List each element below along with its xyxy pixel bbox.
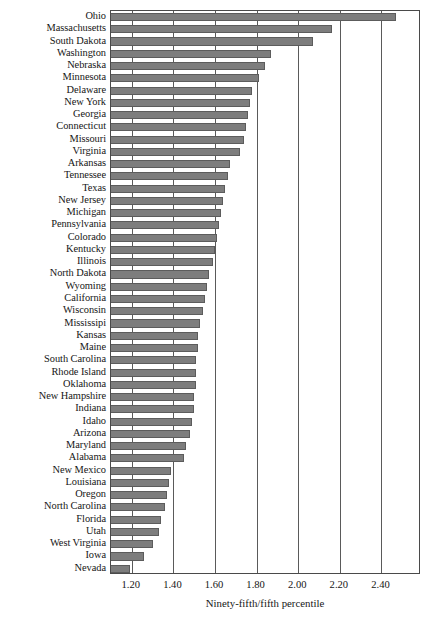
category-label: New Hampshire: [0, 390, 106, 402]
category-label: Ohio: [0, 10, 106, 22]
bar: [111, 37, 313, 45]
bar-row: [111, 281, 421, 293]
category-label: New Jersey: [0, 194, 106, 206]
bar-row: [111, 36, 421, 48]
x-axis-tick-labels: 1.201.401.601.802.002.202.40: [110, 578, 420, 594]
category-label: Maine: [0, 341, 106, 353]
bar: [111, 13, 396, 21]
bar: [111, 136, 244, 144]
bar-row: [111, 85, 421, 97]
bar: [111, 332, 198, 340]
category-label: New Mexico: [0, 464, 106, 476]
bar: [111, 430, 190, 438]
bar-row: [111, 538, 421, 550]
category-label: Indiana: [0, 402, 106, 414]
category-label: Kansas: [0, 329, 106, 341]
category-label: Rhode Island: [0, 366, 106, 378]
category-label: Delaware: [0, 84, 106, 96]
category-label: California: [0, 292, 106, 304]
category-label: Virginia: [0, 145, 106, 157]
bar: [111, 405, 194, 413]
bar-chart-figure: OhioMassachusettsSouth DakotaWashingtonN…: [0, 0, 428, 638]
bar-row: [111, 219, 421, 231]
bar: [111, 25, 332, 33]
bar: [111, 160, 230, 168]
category-label: Louisiana: [0, 476, 106, 488]
bar: [111, 307, 203, 315]
bar-row: [111, 367, 421, 379]
bar-row: [111, 428, 421, 440]
x-tick-label: 2.20: [330, 578, 349, 592]
bar-row: [111, 244, 421, 256]
bar: [111, 148, 240, 156]
bar-rows: [111, 11, 419, 573]
bar: [111, 552, 144, 560]
bar-row: [111, 207, 421, 219]
bar: [111, 99, 250, 107]
bar: [111, 283, 207, 291]
bar-row: [111, 330, 421, 342]
bar-row: [111, 440, 421, 452]
bar: [111, 123, 246, 131]
bar: [111, 185, 225, 193]
bar: [111, 491, 167, 499]
bar-row: [111, 170, 421, 182]
x-tick-label: 1.80: [246, 578, 265, 592]
category-label: Arizona: [0, 427, 106, 439]
category-label: Florida: [0, 513, 106, 525]
x-tick-label: 1.60: [205, 578, 224, 592]
category-label: Washington: [0, 47, 106, 59]
category-label: Minnesota: [0, 71, 106, 83]
bar: [111, 540, 153, 548]
bar: [111, 234, 217, 242]
category-label: Oklahoma: [0, 378, 106, 390]
bar: [111, 50, 271, 58]
category-label: Arkansas: [0, 157, 106, 169]
category-label: Oregon: [0, 488, 106, 500]
bar-row: [111, 342, 421, 354]
bar-row: [111, 195, 421, 207]
category-label: Massachusetts: [0, 22, 106, 34]
bar: [111, 295, 205, 303]
bar: [111, 503, 165, 511]
x-tick-label: 1.20: [122, 578, 141, 592]
category-label: Alabama: [0, 451, 106, 463]
bar-row: [111, 109, 421, 121]
bar-row: [111, 501, 421, 513]
category-label: West Virginia: [0, 537, 106, 549]
bar: [111, 111, 248, 119]
bar-row: [111, 379, 421, 391]
bar-row: [111, 550, 421, 562]
bar: [111, 87, 252, 95]
bar: [111, 442, 186, 450]
bar-row: [111, 158, 421, 170]
bar-row: [111, 97, 421, 109]
bar-row: [111, 452, 421, 464]
bar: [111, 258, 213, 266]
bar: [111, 516, 161, 524]
bar-row: [111, 183, 421, 195]
category-label: Illinois: [0, 255, 106, 267]
bar-row: [111, 72, 421, 84]
x-tick-label: 1.40: [163, 578, 182, 592]
bar: [111, 319, 200, 327]
bar-row: [111, 305, 421, 317]
bar-row: [111, 403, 421, 415]
bar-row: [111, 48, 421, 60]
category-label: New York: [0, 96, 106, 108]
bar-row: [111, 256, 421, 268]
bar-row: [111, 146, 421, 158]
bar: [111, 62, 265, 70]
bar: [111, 393, 194, 401]
bar-row: [111, 514, 421, 526]
bar: [111, 172, 228, 180]
category-label: Wyoming: [0, 280, 106, 292]
x-axis-title: Ninety-fifth/fifth percentile: [110, 596, 420, 610]
bar-row: [111, 416, 421, 428]
bar: [111, 197, 223, 205]
bar-row: [111, 563, 421, 575]
bar: [111, 467, 171, 475]
bar: [111, 479, 169, 487]
bar-row: [111, 11, 421, 23]
x-tick-label: 2.40: [371, 578, 390, 592]
